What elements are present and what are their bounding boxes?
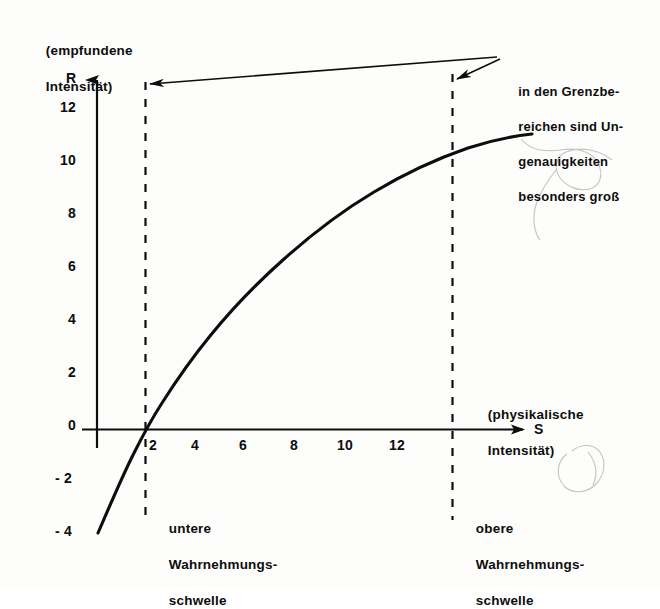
y-tick-minus-4: - 4 [26,523,72,540]
y-tick-0: 0 [30,417,76,434]
x-tick-10: 10 [337,437,353,454]
lower-threshold-label: untere Wahrnehmungs- schwelle [153,502,277,609]
y-axis-caption-line1: (empfundene [46,43,133,58]
y-tick-8: 8 [30,205,76,222]
y-tick-6: 6 [30,258,76,275]
range-inaccuracy-note: in den Grenzbe- reichen sind Un- genauig… [503,65,623,223]
annotation-arrow-to-upper-threshold [457,59,500,79]
y-tick-10: 10 [30,152,76,169]
y-tick-minus-2: - 2 [26,470,72,487]
x-tick-6: 6 [239,437,247,454]
upper-threshold-line2: Wahrnehmungs- [476,557,585,572]
x-axis-caption-line1: (physikalische [488,407,584,422]
upper-threshold-line1: obere [476,521,514,536]
upper-threshold-line3: schwelle [476,593,534,608]
lower-threshold-line1: untere [169,521,211,536]
x-axis-caption-line2: Intensität) [488,443,555,458]
y-axis-variable-label: R [66,70,76,87]
psychophysical-curve [98,134,532,533]
lower-threshold-line2: Wahrnehmungs- [169,557,278,572]
range-note-line4: besonders groß [518,189,619,204]
y-tick-2: 2 [30,364,76,381]
x-axis-caption: (physikalische Intensität) [472,388,584,478]
annotation-arrow-to-lower-threshold [150,57,497,84]
x-tick-8: 8 [290,437,298,454]
x-tick-2: 2 [149,437,157,454]
range-note-line2: reichen sind Un- [518,119,623,134]
x-axis-variable-label: S [534,421,544,438]
y-tick-4: 4 [30,311,76,328]
lower-threshold-line3: schwelle [169,593,227,608]
range-note-line1: in den Grenzbe- [518,84,619,99]
y-axis-caption-line2: Intensität) [46,79,113,94]
upper-threshold-label: obere Wahrnehmungs- schwelle [460,502,584,609]
x-tick-12: 12 [389,437,405,454]
x-tick-4: 4 [191,437,199,454]
y-tick-12: 12 [30,99,76,116]
range-note-line3: genauigkeiten [518,154,608,169]
